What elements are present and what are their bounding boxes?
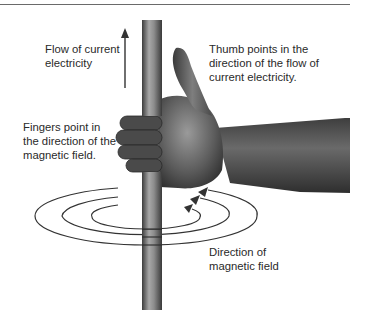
arm: [215, 118, 350, 193]
current-flow-label: Flow of current electricity: [45, 42, 120, 70]
fingers-label: Fingers point in the direction of the ma…: [23, 120, 116, 162]
fingers: [116, 116, 162, 172]
current-arrow-icon: [121, 28, 129, 88]
palm: [158, 96, 223, 189]
thumb-label: Thumb points in the direction of the flo…: [209, 42, 319, 84]
field-direction-arrows: [184, 187, 208, 213]
field-direction-label: Direction of magnetic field: [209, 245, 279, 273]
